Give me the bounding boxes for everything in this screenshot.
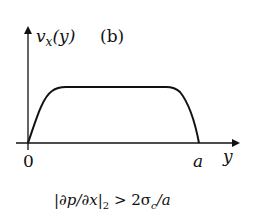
panel-label: (b) — [100, 26, 124, 46]
velocity-profile-curve — [28, 87, 199, 143]
condition-text: |∂p/∂x|2 > 2σc/a — [54, 191, 171, 211]
x-axis-label: y — [222, 146, 233, 166]
velocity-profile-diagram: vx(y) (b) 0 a y |∂p/∂x|2 > 2σc/a — [0, 0, 253, 224]
x-tick-origin: 0 — [23, 151, 34, 171]
x-tick-a: a — [193, 151, 203, 171]
y-axis-label: vx(y) — [36, 26, 75, 49]
